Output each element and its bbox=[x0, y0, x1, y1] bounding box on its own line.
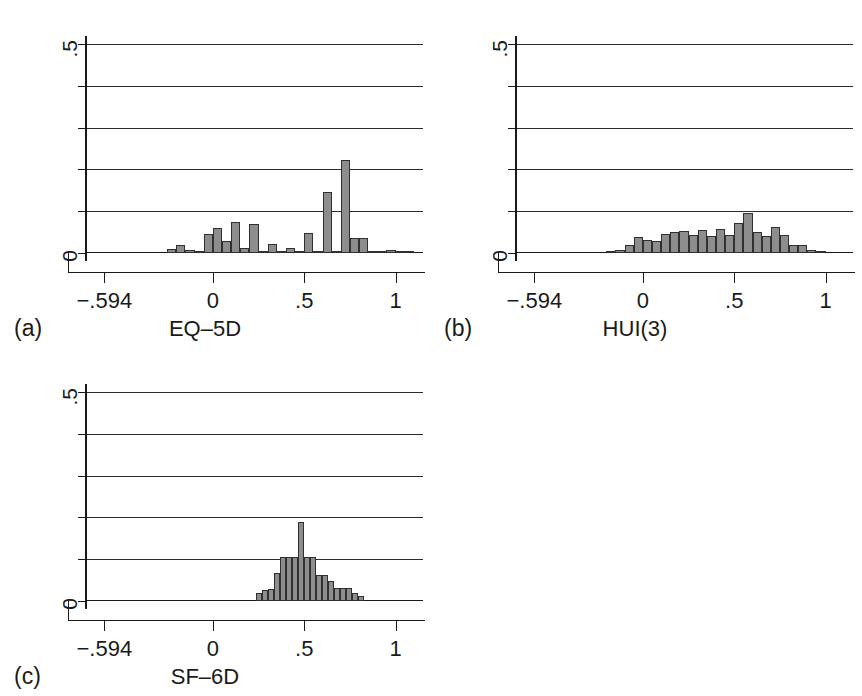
panel-a-axis-title: EQ–5D bbox=[169, 316, 241, 342]
panel-b-plot-area bbox=[515, 44, 853, 253]
x-tick-label: .5 bbox=[295, 288, 313, 314]
histogram-bar bbox=[670, 232, 679, 253]
histogram-bar bbox=[386, 250, 395, 253]
panel-b: .5 0 −.5940.51 (b) HUI(3) bbox=[430, 0, 862, 348]
x-tick bbox=[534, 272, 535, 283]
histogram-bar bbox=[304, 233, 313, 253]
panel-a-y-top-label: .5 bbox=[58, 40, 82, 110]
histogram-bar bbox=[368, 251, 377, 253]
x-tick bbox=[734, 272, 735, 283]
histogram-bar bbox=[689, 235, 698, 253]
y-tick bbox=[78, 253, 87, 254]
y-tick bbox=[78, 601, 87, 602]
histogram-bar bbox=[789, 245, 798, 253]
histogram-bar bbox=[286, 248, 295, 253]
x-tick bbox=[104, 620, 105, 631]
histogram-bar bbox=[231, 222, 240, 253]
panel-a: .5 0 −.5940.51 (a) EQ–5D bbox=[0, 0, 432, 348]
histogram-bar bbox=[323, 192, 332, 253]
histogram-bar bbox=[358, 596, 364, 601]
x-tick-label: .5 bbox=[295, 636, 313, 662]
histogram-bar bbox=[771, 227, 780, 253]
histogram-bar bbox=[377, 251, 386, 253]
panel-c-x-axis-stub bbox=[68, 601, 69, 621]
panel-b-y-top-label: .5 bbox=[488, 40, 512, 110]
histogram-bar bbox=[213, 228, 222, 253]
panel-c-axis-title: SF–6D bbox=[171, 664, 239, 690]
histogram-bar bbox=[268, 244, 277, 253]
histogram-bar bbox=[277, 251, 286, 253]
x-tick-label: 0 bbox=[637, 288, 649, 314]
histogram-bar bbox=[606, 251, 615, 254]
histogram-bar bbox=[716, 229, 725, 253]
histogram-bar bbox=[341, 160, 350, 253]
histogram-bar bbox=[195, 251, 204, 254]
histogram-bar bbox=[295, 251, 304, 253]
histogram-bar bbox=[405, 251, 414, 253]
x-tick bbox=[396, 620, 397, 631]
panel-a-x-axis-stub bbox=[68, 253, 69, 273]
histogram-bar bbox=[661, 234, 670, 253]
histogram-bar bbox=[176, 245, 185, 253]
histogram-bar bbox=[816, 251, 825, 253]
histogram-bar bbox=[204, 234, 213, 253]
panel-b-x-axis bbox=[498, 272, 855, 273]
panel-c-y-top-label: .5 bbox=[58, 388, 82, 458]
panel-b-x-axis-stub bbox=[498, 253, 499, 273]
histogram-bar bbox=[615, 250, 624, 253]
x-tick-label: −.594 bbox=[77, 288, 133, 314]
histogram-bar bbox=[734, 223, 743, 253]
panel-b-axis-title: HUI(3) bbox=[603, 316, 668, 342]
histogram-bar bbox=[625, 245, 634, 253]
x-tick-label: 1 bbox=[389, 288, 401, 314]
histogram-bar bbox=[698, 230, 707, 253]
histogram-bar bbox=[652, 241, 661, 253]
histogram-bar bbox=[725, 235, 734, 253]
x-tick-label: .5 bbox=[725, 288, 743, 314]
histogram-bar bbox=[350, 238, 359, 253]
x-tick-label: 0 bbox=[207, 288, 219, 314]
histogram-bar bbox=[743, 213, 752, 253]
histogram-figure: .5 0 −.5940.51 (a) EQ–5D .5 0 bbox=[0, 0, 862, 696]
histogram-bar bbox=[798, 245, 807, 253]
histogram-bar bbox=[679, 231, 688, 253]
histogram-bar bbox=[634, 237, 643, 253]
x-tick bbox=[213, 620, 214, 631]
histogram-bar bbox=[396, 251, 405, 253]
y-tick bbox=[508, 253, 517, 254]
x-tick-label: 1 bbox=[819, 288, 831, 314]
histogram-bar bbox=[359, 238, 368, 253]
histogram-bar bbox=[249, 224, 258, 253]
x-tick bbox=[643, 272, 644, 283]
x-tick-label: 1 bbox=[389, 636, 401, 662]
x-tick bbox=[396, 272, 397, 283]
x-tick bbox=[826, 272, 827, 283]
panel-b-bars bbox=[515, 44, 853, 253]
histogram-bar bbox=[313, 251, 322, 253]
panel-a-x-axis bbox=[68, 272, 425, 273]
histogram-bar bbox=[707, 236, 716, 253]
x-tick-label: −.594 bbox=[507, 288, 563, 314]
histogram-bar bbox=[332, 251, 341, 253]
x-tick bbox=[304, 272, 305, 283]
histogram-bar bbox=[807, 250, 816, 253]
panel-b-caption: (b) bbox=[444, 315, 472, 342]
panel-a-bars bbox=[85, 44, 423, 253]
panel-a-caption: (a) bbox=[14, 315, 42, 342]
panel-a-plot-area bbox=[85, 44, 423, 253]
histogram-bar bbox=[753, 232, 762, 253]
x-tick bbox=[304, 620, 305, 631]
x-tick bbox=[213, 272, 214, 283]
histogram-bar bbox=[780, 235, 789, 253]
panel-c-caption: (c) bbox=[14, 663, 41, 690]
panel-c-bars bbox=[85, 392, 423, 601]
histogram-bar bbox=[185, 250, 194, 253]
x-tick-label: −.594 bbox=[77, 636, 133, 662]
histogram-bar bbox=[222, 241, 231, 253]
panel-c-plot-area bbox=[85, 392, 423, 601]
histogram-bar bbox=[167, 249, 176, 253]
histogram-bar bbox=[762, 236, 771, 253]
panel-c: .5 0 −.5940.51 (c) SF–6D bbox=[0, 348, 432, 696]
panel-c-x-axis bbox=[68, 620, 425, 621]
x-tick bbox=[104, 272, 105, 283]
